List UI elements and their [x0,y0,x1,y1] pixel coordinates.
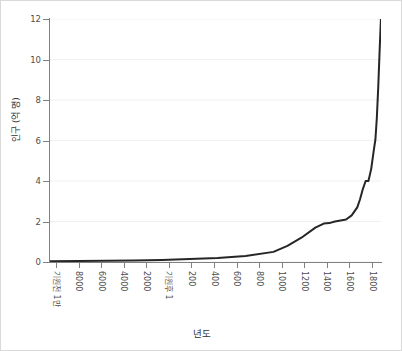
x-tick-label: 기원전 1만 [52,271,60,307]
y-tick-mark [43,181,49,182]
x-tick-mark [372,263,373,268]
y-axis-spine [49,18,50,263]
plot-area [50,19,381,262]
y-tick-label: 4 [1,177,41,186]
y-tick-label: 2 [1,218,41,227]
x-tick-label: 200 [187,271,195,286]
x-tick-mark [169,263,170,268]
x-tick-mark [237,263,238,268]
x-tick-mark [191,263,192,268]
y-tick-mark [43,60,49,61]
y-tick-mark [43,222,49,223]
x-tick-label: 8000 [74,271,82,291]
x-tick-label: 6000 [97,271,105,291]
y-tick-label: 12 [1,15,41,24]
x-tick-label: 1600 [345,271,353,291]
x-tick-label: 600 [232,271,240,286]
x-tick-label: 4000 [119,271,127,291]
x-tick-mark [282,263,283,268]
y-tick-mark [43,19,49,20]
x-tick-mark [327,263,328,268]
x-tick-label: 400 [210,271,218,286]
y-tick-label: 10 [1,56,41,65]
y-tick-mark [43,100,49,101]
x-axis-spine [49,262,382,263]
x-tick-label: 1000 [277,271,285,291]
chart-figure: 024681012 인구 (억 명) 기원전 1만800060004000200… [0,0,402,351]
chart-canvas [50,19,381,262]
x-tick-mark [124,263,125,268]
x-tick-label: 기원후 1 [164,271,172,300]
x-tick-mark [56,263,57,268]
gridlines [50,19,381,262]
x-tick-label: 800 [255,271,263,286]
x-tick-label: 1200 [300,271,308,291]
x-tick-label: 1800 [368,271,376,291]
y-tick-label: 0 [1,258,41,267]
x-tick-mark [214,263,215,268]
x-tick-mark [349,263,350,268]
x-axis-title: 년도 [1,326,402,340]
x-tick-mark [259,263,260,268]
x-tick-mark [146,263,147,268]
y-tick-mark [43,141,49,142]
x-tick-mark [79,263,80,268]
x-tick-label: 2000 [142,271,150,291]
y-axis-title: 인구 (억 명) [9,65,22,175]
x-tick-mark [304,263,305,268]
x-tick-label: 1400 [322,271,330,291]
x-tick-mark [101,263,102,268]
